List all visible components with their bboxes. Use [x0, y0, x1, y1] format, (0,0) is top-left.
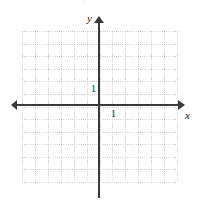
x-axis-right-arrow-icon — [178, 100, 185, 110]
plot-area: y x 1 1 — [0, 0, 198, 205]
grid-line-vertical — [151, 31, 152, 182]
grid-line-vertical — [48, 31, 49, 182]
grid-line-vertical — [87, 31, 88, 182]
y-axis-line — [98, 22, 100, 198]
grid-line-vertical — [22, 31, 23, 182]
grid-line-vertical — [125, 31, 126, 182]
grid-line-vertical — [74, 31, 75, 182]
grid-line-vertical — [164, 31, 165, 182]
grid-line-vertical — [112, 31, 113, 182]
grid-line-vertical — [35, 31, 36, 182]
grid-line-vertical — [100, 31, 101, 182]
y-axis-label: y — [87, 13, 92, 24]
y-axis-tick-label-1: 1 — [91, 84, 96, 94]
coordinate-grid-screenshot: ment of y y x 1 1 — [0, 0, 198, 205]
x-axis-label: x — [185, 110, 190, 121]
y-axis-top-arrow-icon — [94, 16, 104, 23]
x-axis-tick-label-1: 1 — [111, 109, 116, 119]
grid-line-vertical — [138, 31, 139, 182]
x-axis-left-arrow-icon — [11, 100, 17, 110]
grid-line-vertical — [61, 31, 62, 182]
